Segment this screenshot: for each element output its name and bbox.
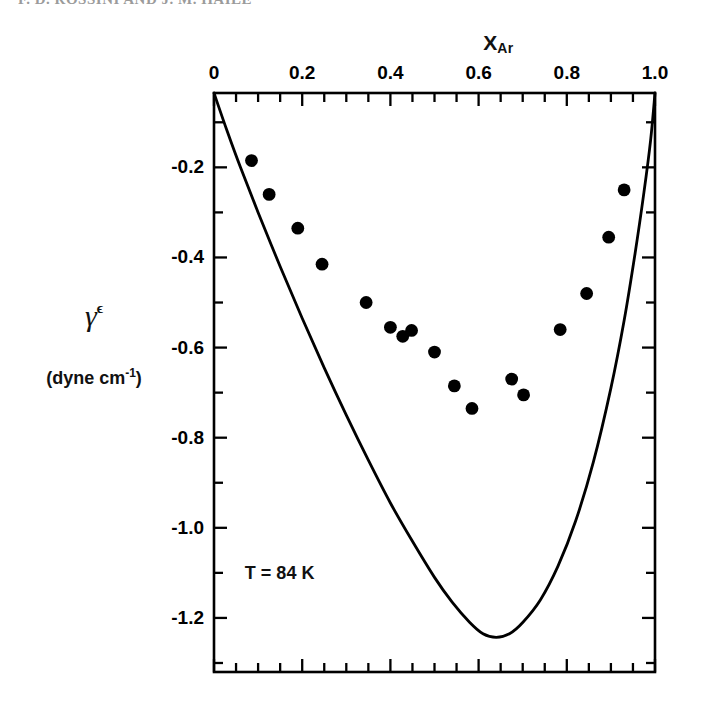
data-point xyxy=(405,324,418,337)
data-point xyxy=(245,154,258,167)
data-point xyxy=(517,388,530,401)
y-axis-tick-marks-right xyxy=(642,122,655,663)
x-axis-title-symbol: X xyxy=(483,31,497,54)
y-tick-label: -1.2 xyxy=(118,607,204,629)
plot-frame xyxy=(214,93,655,672)
data-point-markers xyxy=(245,154,630,415)
y-tick-label: -1.0 xyxy=(118,517,204,539)
y-axis-title-symbol: γ xyxy=(85,299,97,332)
y-axis-units-exponent: -1 xyxy=(125,366,136,380)
x-tick-label: 0 xyxy=(209,62,220,84)
data-point xyxy=(291,222,304,235)
y-axis-title: γϵ xyxy=(85,299,103,333)
x-axis-title-subscript: Ar xyxy=(497,40,513,56)
data-point xyxy=(384,321,397,334)
x-tick-label: 1.0 xyxy=(642,62,668,84)
x-axis-tick-marks-bottom xyxy=(214,659,655,672)
x-tick-label: 0.4 xyxy=(377,62,403,84)
y-axis-units-suffix: ) xyxy=(136,369,142,389)
x-tick-label: 0.8 xyxy=(554,62,580,84)
data-point xyxy=(360,296,373,309)
y-tick-label: -0.8 xyxy=(118,427,204,449)
data-point xyxy=(602,231,615,244)
y-axis-title-superscript: ϵ xyxy=(97,300,103,316)
data-point xyxy=(316,258,329,271)
data-point xyxy=(618,183,631,196)
data-point xyxy=(505,373,518,386)
running-head: F. D. ROSSINI AND J. M. HAILE xyxy=(18,0,252,8)
x-tick-label: 0.6 xyxy=(465,62,491,84)
data-point xyxy=(554,323,567,336)
data-point xyxy=(263,188,276,201)
scatter-plot-canvas xyxy=(0,0,702,708)
x-axis-tick-marks-top xyxy=(214,93,655,106)
temperature-annotation: T = 84 K xyxy=(245,563,315,584)
y-axis-tick-marks-left xyxy=(214,122,227,663)
y-tick-label: -0.4 xyxy=(118,246,204,268)
figure-panel: F. D. ROSSINI AND J. M. HAILE 00.20.40.6… xyxy=(0,0,702,708)
data-point xyxy=(466,402,479,415)
data-point xyxy=(580,287,593,300)
x-tick-label: 0.2 xyxy=(289,62,315,84)
x-axis-title: XAr xyxy=(483,31,513,56)
y-axis-units-label: (dyne cm-1) xyxy=(46,366,142,389)
y-axis-units-prefix: (dyne cm xyxy=(46,369,125,389)
data-point xyxy=(428,346,441,359)
theoretical-curve xyxy=(214,93,655,637)
y-tick-label: -0.2 xyxy=(118,156,204,178)
data-point xyxy=(448,379,461,392)
y-tick-label: -0.6 xyxy=(118,337,204,359)
